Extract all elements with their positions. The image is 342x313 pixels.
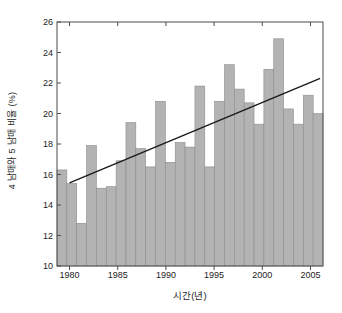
bar	[284, 109, 294, 266]
bar	[146, 167, 156, 266]
y-tick-label: 22	[31, 78, 53, 88]
bar	[224, 65, 234, 266]
bar	[136, 149, 146, 266]
x-tick-label: 1980	[50, 270, 90, 280]
bar	[116, 161, 126, 266]
bar	[106, 187, 116, 266]
bar	[244, 103, 254, 266]
bar	[67, 184, 77, 266]
x-tick-label: 2005	[290, 270, 330, 280]
y-tick-label: 16	[31, 170, 53, 180]
bar	[234, 89, 244, 266]
x-tick-label: 1990	[146, 270, 186, 280]
y-tick-label: 24	[31, 48, 53, 58]
y-tick-label: 18	[31, 139, 53, 149]
bar	[185, 147, 195, 266]
x-tick-label: 1995	[194, 270, 234, 280]
bar	[313, 114, 323, 267]
bar	[87, 146, 97, 266]
x-tick-label: 1985	[98, 270, 138, 280]
bar	[175, 142, 185, 266]
bar	[303, 95, 313, 266]
bar	[274, 39, 284, 266]
y-tick-label: 12	[31, 231, 53, 241]
bar	[156, 101, 166, 266]
bar	[195, 86, 205, 266]
bar	[205, 167, 215, 266]
x-axis-label: 시간(년)	[57, 288, 323, 302]
bar	[254, 124, 264, 266]
chart-figure: 4 남매와 5 남매 비율 (%) 101214161820222426 198…	[0, 0, 342, 313]
bar	[57, 170, 67, 266]
bar	[293, 124, 303, 266]
bar	[165, 162, 175, 266]
bar	[96, 188, 106, 266]
bar	[215, 101, 225, 266]
bar	[77, 223, 87, 266]
x-tick-label: 2000	[242, 270, 282, 280]
bar	[126, 123, 136, 266]
y-tick-label: 14	[31, 200, 53, 210]
y-tick-label: 26	[31, 17, 53, 27]
y-tick-label: 20	[31, 109, 53, 119]
